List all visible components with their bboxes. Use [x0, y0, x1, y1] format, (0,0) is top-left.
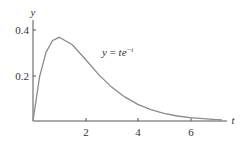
x-tick-label-6: 6	[188, 126, 194, 138]
x-tick-label-2: 2	[83, 126, 89, 138]
chart: 2 4 6 0.2 0.4 y t y = te−t	[0, 0, 242, 144]
x-tick-label-4: 4	[135, 126, 141, 138]
y-tick-label-04: 0.4	[15, 24, 29, 36]
y-axis-label: y	[30, 6, 36, 18]
equation-label: y = te−t	[101, 46, 134, 58]
x-axis-label: t	[231, 114, 235, 126]
y-tick-label-02: 0.2	[15, 70, 29, 82]
